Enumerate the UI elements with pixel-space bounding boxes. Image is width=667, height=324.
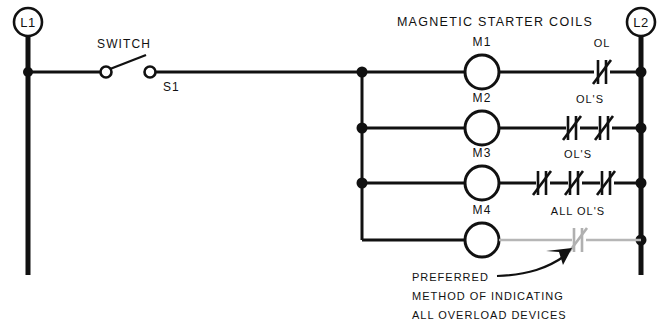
switch-designation-label: S1	[163, 80, 180, 94]
rung-4: M4 ALL OL'S	[362, 203, 641, 257]
right-rail-group: L2	[627, 8, 655, 275]
coil-m3[interactable]	[465, 166, 499, 200]
annotation-arrow-head	[546, 248, 572, 265]
left-rail-group: L1	[14, 8, 42, 275]
rung-1: M1 OL	[362, 35, 641, 89]
magnetic-starter-coils-header: MAGNETIC STARTER COILS	[397, 15, 593, 29]
switch-name-label: SWITCH	[97, 37, 151, 51]
coil-m1-label: M1	[473, 35, 492, 49]
annotation-line-3: ALL OVERLOAD DEVICES	[412, 309, 567, 321]
rung-3: M3 OL'S	[362, 146, 641, 200]
l2-label: L2	[633, 15, 648, 30]
annotation-group: PREFERRED METHOD OF INDICATING ALL OVERL…	[412, 248, 572, 321]
branch-bus-group	[357, 67, 368, 241]
switch-blade[interactable]	[110, 55, 146, 69]
switch-right-terminal[interactable]	[145, 67, 156, 78]
annotation-line-1: PREFERRED	[412, 271, 489, 283]
rung-2-overload-label: OL'S	[576, 93, 604, 105]
rung-1-overload-label: OL	[594, 37, 611, 49]
coil-m2-label: M2	[473, 91, 492, 105]
coil-m1[interactable]	[465, 55, 499, 89]
l1-label: L1	[20, 15, 35, 30]
coil-m4[interactable]	[465, 223, 499, 257]
coil-m4-label: M4	[473, 203, 492, 217]
annotation-arrow-line	[497, 255, 566, 276]
annotation-line-2: METHOD OF INDICATING	[412, 290, 564, 302]
ladder-diagram: L1 L2 MAGNETIC STARTER COILS SWITCH S1	[0, 0, 667, 324]
rung-3-overload-label: OL'S	[564, 148, 592, 160]
rung-4-overload-label: ALL OL'S	[551, 205, 605, 217]
ladder-logic-schematic: L1 L2 MAGNETIC STARTER COILS SWITCH S1	[0, 0, 667, 324]
coil-m2[interactable]	[465, 111, 499, 145]
rung-1-overload-contact-1[interactable]	[593, 60, 611, 84]
rung-2: M2 OL'S	[362, 91, 641, 145]
coil-m3-label: M3	[473, 146, 492, 160]
switch-branch-group: SWITCH S1	[28, 37, 362, 94]
